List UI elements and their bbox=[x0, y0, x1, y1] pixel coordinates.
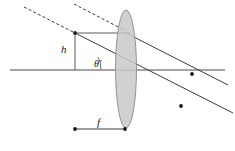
diagram-canvas: h θ' f bbox=[0, 0, 235, 151]
object-point-dot bbox=[73, 31, 77, 35]
lens-ray-diagram: h θ' f bbox=[0, 0, 235, 151]
focal-length-label: f bbox=[97, 116, 102, 128]
chief-ray bbox=[75, 33, 233, 113]
dashed-ray-upper bbox=[24, 7, 75, 33]
ray-direction-dot-upper bbox=[190, 72, 194, 76]
angle-label: θ' bbox=[94, 58, 102, 69]
focal-left-dot bbox=[73, 127, 77, 131]
ray-direction-dot-lower bbox=[179, 104, 183, 108]
refracted-ray bbox=[126, 33, 228, 85]
focal-right-dot bbox=[123, 127, 127, 131]
height-label: h bbox=[61, 43, 67, 55]
converging-lens bbox=[116, 10, 137, 128]
